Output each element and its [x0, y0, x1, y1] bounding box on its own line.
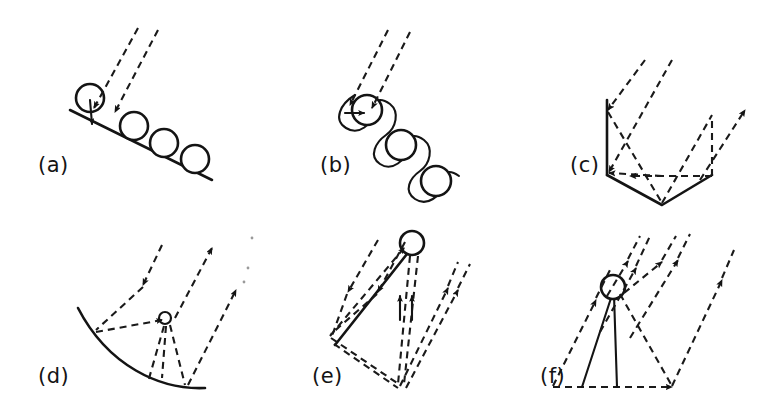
panel-c-surface	[607, 100, 712, 205]
panel-label-f: (f)	[540, 364, 565, 388]
panel-label-e: (e)	[312, 364, 343, 388]
panel-e-internal-rays	[330, 248, 418, 388]
panel-b-particles	[352, 95, 451, 196]
panel-b: (b)	[320, 30, 459, 202]
scattering-diagram-figure: (a) (b)	[0, 0, 782, 414]
panel-d-incident-ray	[96, 245, 162, 330]
panel-f-supports	[582, 295, 617, 387]
panel-f-parallel-rays	[553, 234, 734, 386]
panel-d-surface	[78, 308, 205, 388]
panel-e-reflected-rays	[400, 262, 470, 388]
panel-f: (f)	[540, 234, 734, 388]
panel-d-focus	[159, 312, 171, 324]
panel-label-a: (a)	[38, 153, 69, 177]
panel-c-reflected-rays	[662, 110, 745, 203]
panel-c: (c)	[570, 60, 745, 205]
panel-c-internal-rays	[609, 173, 712, 176]
panel-label-d: (d)	[38, 364, 69, 388]
figure-root: (a) (b)	[0, 0, 782, 414]
panel-a: (a)	[38, 28, 212, 180]
panel-d-focus-rays	[96, 320, 185, 385]
panel-d-scan-specks	[243, 237, 254, 284]
panel-a-particles	[76, 84, 209, 173]
panel-e: (e)	[312, 231, 470, 388]
panel-d-reflected-rays	[175, 248, 236, 385]
panel-label-b: (b)	[320, 153, 351, 177]
panel-label-c: (c)	[570, 153, 599, 177]
panel-f-reflected-paths	[620, 294, 672, 386]
panel-d: (d)	[38, 237, 253, 389]
